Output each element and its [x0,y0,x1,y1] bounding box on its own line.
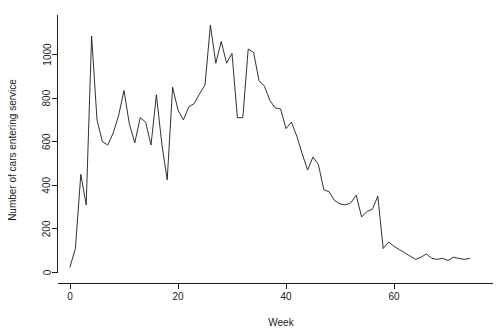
x-axis-ticks: 0204060 [67,284,400,302]
y-tick-label: 200 [42,220,53,237]
x-tick-label: 40 [280,291,292,302]
y-tick-label: 0 [42,269,53,275]
y-axis-title: Number of cars entering service [7,79,18,221]
x-tick-label: 20 [172,291,184,302]
y-tick-label: 400 [42,177,53,194]
x-axis-title: Week [268,317,294,328]
y-axis-ticks: 02004006008001000 [42,43,58,275]
x-tick-label: 60 [388,291,400,302]
x-axis-group: 0204060 [58,284,493,302]
data-series-group [70,25,470,267]
y-tick-label: 600 [42,133,53,150]
y-axis-group: 02004006008001000 [42,15,58,275]
y-tick-label: 800 [42,89,53,106]
series-line-cars-entering-service [70,25,470,267]
chart-container: 02004006008001000 0204060 Week Number of… [0,0,501,334]
y-tick-label: 1000 [42,43,53,66]
x-tick-label: 0 [67,291,73,302]
line-chart: 02004006008001000 0204060 Week Number of… [0,0,501,334]
